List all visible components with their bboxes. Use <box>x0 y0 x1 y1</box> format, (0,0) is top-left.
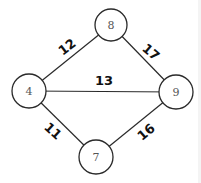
node-9: 9 <box>159 75 193 109</box>
node-8-label: 8 <box>108 19 115 32</box>
node-4-label: 4 <box>26 85 33 98</box>
edge-weight-8-9: 17 <box>139 40 163 63</box>
node-9-label: 9 <box>173 86 180 99</box>
right-edge-strip <box>198 0 201 183</box>
node-8: 8 <box>95 9 127 41</box>
edge-weight-4-8: 12 <box>55 36 78 59</box>
graph-diagram: 12 17 13 11 16 8 4 9 7 <box>0 0 201 183</box>
edge-weight-4-9: 13 <box>95 73 113 88</box>
node-7-label: 7 <box>93 151 100 164</box>
node-4: 4 <box>12 74 46 108</box>
edge-weight-7-9: 16 <box>134 120 158 143</box>
edge-4-9 <box>29 91 176 92</box>
node-7: 7 <box>79 140 113 174</box>
